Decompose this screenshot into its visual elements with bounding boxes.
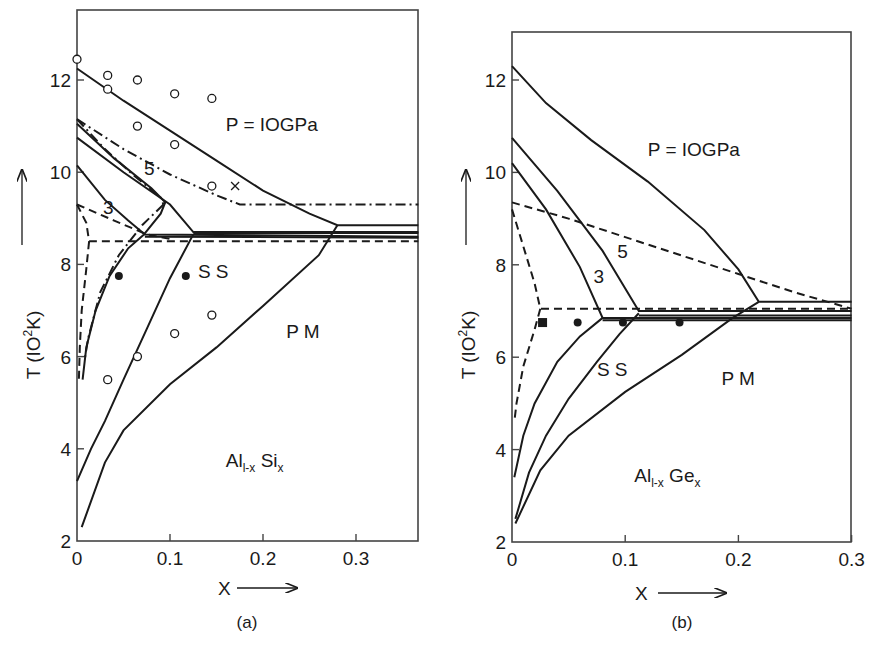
plot-annotation: 3 <box>594 266 605 287</box>
open-circle-marker <box>208 94 216 102</box>
y-tick-label: 4 <box>60 439 71 460</box>
open-circle-marker <box>133 353 141 361</box>
phase-line <box>515 313 638 519</box>
open-circle-marker <box>104 85 112 93</box>
phase-line <box>84 205 163 362</box>
filled-circle-marker <box>619 319 627 327</box>
chart-panel-a: 00.10.20.324681012 P = IOGPa53S SP MAll-… <box>21 10 418 632</box>
phase-boundary-lines-a <box>77 69 418 528</box>
x-tick-label: 0.3 <box>838 549 864 570</box>
phase-line <box>515 302 758 524</box>
y-tick-label: 12 <box>485 70 506 91</box>
svg-text:T (IO2K): T (IO2K) <box>21 311 44 380</box>
filled-circle-marker <box>676 319 684 327</box>
figure: 00.10.20.324681012 P = IOGPa53S SP MAll-… <box>0 0 871 648</box>
phase-line <box>514 318 602 477</box>
plot-annotation: P = IOGPa <box>648 139 740 160</box>
y-tick-label: 4 <box>495 440 506 461</box>
open-circle-marker <box>104 71 112 79</box>
y-tick-label: 10 <box>485 162 506 183</box>
open-circle-marker <box>171 141 179 149</box>
open-circle-marker <box>208 182 216 190</box>
y-tick-label: 6 <box>60 347 71 368</box>
phase-line <box>145 237 418 238</box>
y-tick-label: 2 <box>60 531 71 552</box>
phase-line <box>512 66 852 302</box>
phase-line <box>514 309 540 422</box>
filled-circle-marker <box>574 319 582 327</box>
filled-circle-marker <box>182 272 190 280</box>
x-tick-label: 0 <box>507 549 518 570</box>
svg-text:T (IO2K): T (IO2K) <box>456 311 479 380</box>
filled-circle-marker <box>115 272 123 280</box>
y-tick-label: 12 <box>50 70 71 91</box>
y-tick-label: 2 <box>495 532 506 553</box>
plot-annotation: P M <box>721 368 754 389</box>
y-axis-label-b: T (IO2K) <box>456 311 479 380</box>
open-circle-marker <box>208 311 216 319</box>
phase-line <box>512 202 852 308</box>
x-tick-label: 0.1 <box>612 549 638 570</box>
plot-annotation: 5 <box>617 241 628 262</box>
axis-ticks-a: 00.10.20.324681012 <box>50 70 369 569</box>
annotations-a: P = IOGPa53S SP MAll-x Six <box>103 114 320 476</box>
open-circle-marker <box>171 90 179 98</box>
y-tick-label: 10 <box>50 162 71 183</box>
x-tick-label: 0 <box>72 548 83 569</box>
open-circle-marker <box>73 55 81 63</box>
x-axis-label-a: X <box>218 578 231 599</box>
panel-label-b: (b) <box>672 613 693 632</box>
panel-label-a: (a) <box>237 613 258 632</box>
chart-panel-b: 00.10.20.324681012 P = IOGPa53S SP MAll-… <box>456 32 865 632</box>
phase-boundary-lines-b <box>512 66 852 523</box>
plot-annotation: 5 <box>144 158 155 179</box>
phase-line <box>77 124 165 235</box>
open-circle-marker <box>104 376 112 384</box>
plot-annotation: All-x Gex <box>634 465 700 490</box>
x-tick-label: 0.3 <box>343 548 369 569</box>
plot-annotation: P = IOGPa <box>226 114 318 135</box>
annotations-b: P = IOGPa53S SP MAll-x Gex <box>594 139 755 490</box>
plot-annotation: 3 <box>103 197 114 218</box>
x-axis-label-b: X <box>635 583 648 604</box>
x-tick-label: 0.2 <box>725 549 751 570</box>
x-tick-label: 0.2 <box>250 548 276 569</box>
cross-marker <box>231 182 239 190</box>
filled-square-marker <box>538 318 547 327</box>
phase-line <box>512 138 852 311</box>
plot-annotation: S S <box>198 261 229 282</box>
y-axis-label-a: T (IO2K) <box>21 311 44 380</box>
phase-line <box>77 69 418 226</box>
plot-annotation: S S <box>597 359 628 380</box>
y-tick-label: 8 <box>60 254 71 275</box>
open-circle-marker <box>133 122 141 130</box>
y-tick-label: 6 <box>495 347 506 368</box>
x-tick-label: 0.1 <box>157 548 183 569</box>
y-tick-label: 8 <box>495 255 506 276</box>
open-circle-marker <box>133 76 141 84</box>
open-circle-marker <box>171 330 179 338</box>
plot-annotation: P M <box>286 321 319 342</box>
plot-annotation: All-x Six <box>226 450 284 475</box>
